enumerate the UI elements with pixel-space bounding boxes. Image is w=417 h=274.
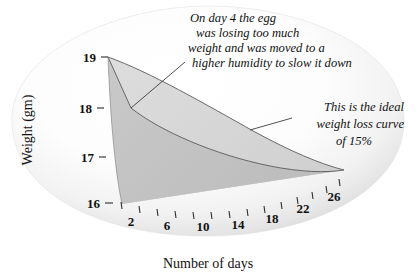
- actual-note-line: was losing too much: [196, 26, 299, 40]
- y-axis-title: Weight (gm): [20, 94, 36, 165]
- ideal-note-line: of 15%: [336, 134, 372, 148]
- y-tick-label: 19: [83, 50, 97, 65]
- x-tick-label: 26: [328, 189, 342, 204]
- y-tick-label: 17: [81, 150, 95, 165]
- y-tick-label: 18: [79, 101, 93, 116]
- ideal-note-line: weight loss curve: [317, 117, 405, 131]
- x-axis-title: Number of days: [163, 256, 253, 271]
- y-tick-label: 16: [87, 196, 101, 211]
- ideal-note-line: This is the ideal: [324, 100, 405, 114]
- actual-note-line: weight and was moved to a: [188, 41, 325, 55]
- egg-weight-loss-chart: 19 18 17 16 2 6 10 14: [0, 0, 417, 274]
- x-tick-label: 18: [266, 211, 280, 226]
- x-tick-label: 10: [197, 219, 210, 234]
- x-tick-label: 6: [164, 218, 171, 233]
- x-tick-label: 22: [297, 201, 310, 216]
- x-tick-label: 2: [128, 214, 135, 229]
- chart-canvas: 19 18 17 16 2 6 10 14: [0, 0, 417, 274]
- x-tick-label: 14: [232, 217, 246, 232]
- actual-note-line: higher humidity to slow it down: [192, 56, 352, 70]
- actual-note-line: On day 4 the egg: [190, 11, 276, 25]
